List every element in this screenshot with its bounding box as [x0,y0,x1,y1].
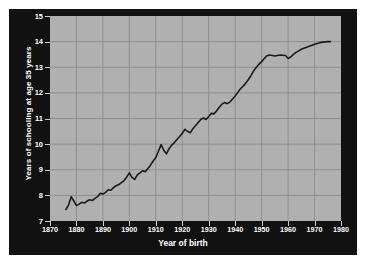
x-tick-mark [235,221,236,226]
x-tick-label: 1890 [89,225,117,234]
x-tick-mark [50,221,51,226]
y-tick-label: 13 [27,63,43,72]
x-tick-mark [182,221,183,226]
x-tick-label: 1880 [62,225,90,234]
x-tick-mark [288,221,289,226]
x-tick-label: 1920 [168,225,196,234]
x-tick-label: 1900 [115,225,143,234]
x-tick-label: 1910 [142,225,170,234]
y-tick-label: 15 [27,12,43,21]
x-tick-label: 1980 [327,225,355,234]
y-tick-label: 9 [27,165,43,174]
x-tick-label: 1930 [195,225,223,234]
x-tick-label: 1950 [248,225,276,234]
y-tick-label: 14 [27,37,43,46]
x-tick-label: 1870 [36,225,64,234]
plot-area [50,16,341,221]
line-chart-svg [50,16,341,221]
x-tick-mark [209,221,210,226]
chart-figure: Years of schooling at age 35 years 78910… [9,9,357,255]
x-axis-label: Year of birth [9,238,357,248]
x-tick-mark [315,221,316,226]
y-tick-label: 11 [27,114,43,123]
x-tick-label: 1960 [274,225,302,234]
x-tick-mark [341,221,342,226]
x-tick-mark [76,221,77,226]
y-tick-label: 12 [27,88,43,97]
y-tick-label: 10 [27,140,43,149]
x-tick-label: 1940 [221,225,249,234]
x-tick-mark [156,221,157,226]
x-tick-label: 1970 [301,225,329,234]
y-axis-label-host: Years of schooling at age 35 years [12,19,26,219]
x-tick-mark [103,221,104,226]
y-tick-label: 8 [27,191,43,200]
x-tick-mark [262,221,263,226]
x-tick-mark [129,221,130,226]
